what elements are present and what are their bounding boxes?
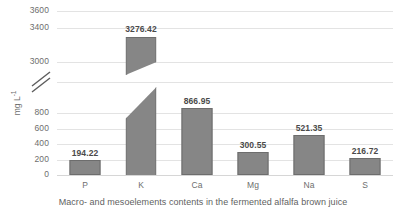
y-axis-tick-3600: 3600 bbox=[30, 6, 49, 15]
bar-slot-P: 194.22 bbox=[57, 11, 113, 175]
bar-K-upper-segment[interactable] bbox=[126, 37, 157, 76]
x-axis-tick-Na: Na bbox=[304, 180, 315, 190]
bar-Ca[interactable] bbox=[182, 108, 213, 175]
bar-value-label-Ca: 866.95 bbox=[184, 96, 211, 106]
x-axis-tick-Ca: Ca bbox=[192, 180, 203, 190]
bar-slot-Mg: 300.55 bbox=[225, 11, 281, 175]
y-axis-title-text: mg L bbox=[12, 96, 22, 115]
y-axis-tick-0: 0 bbox=[44, 170, 49, 179]
bar-value-label-Na: 521.35 bbox=[296, 123, 323, 133]
bar-value-label-S: 216.72 bbox=[352, 146, 379, 156]
x-axis-tick-S: S bbox=[362, 180, 368, 190]
axis-break-icon bbox=[30, 70, 56, 94]
bar-value-label-K: 3276.42 bbox=[125, 24, 156, 34]
bar-value-label-Mg: 300.55 bbox=[240, 140, 267, 150]
y-axis-tick-200: 200 bbox=[35, 155, 49, 164]
bar-slot-Na: 521.35 bbox=[281, 11, 337, 175]
y-axis-title: mg L-1 bbox=[10, 80, 22, 126]
y-axis-tick-labels: 3000340036000200400600800 bbox=[0, 0, 57, 221]
y-axis-tick-400: 400 bbox=[35, 139, 49, 148]
plot-area: 194.223276.42866.95300.55521.35216.72 bbox=[57, 11, 393, 175]
bar-slot-S: 216.72 bbox=[337, 11, 393, 175]
bar-Mg[interactable] bbox=[238, 152, 269, 175]
bar-slot-Ca: 866.95 bbox=[169, 11, 225, 175]
bar-Na[interactable] bbox=[294, 135, 325, 175]
bar-K-lower-segment[interactable] bbox=[126, 87, 157, 175]
x-axis-tick-K: K bbox=[138, 180, 144, 190]
axis-baseline bbox=[57, 175, 393, 176]
x-axis-tick-P: P bbox=[82, 180, 88, 190]
bar-value-label-P: 194.22 bbox=[72, 148, 99, 158]
bar-slot-K: 3276.42 bbox=[113, 11, 169, 175]
x-axis-title: Macro- and mesoelements contents in the … bbox=[0, 197, 406, 207]
bar-S[interactable] bbox=[350, 158, 381, 175]
y-axis-tick-600: 600 bbox=[35, 124, 49, 133]
y-axis-tick-3400: 3400 bbox=[30, 23, 49, 32]
y-axis-title-exponent: -1 bbox=[10, 91, 17, 97]
y-axis-tick-800: 800 bbox=[35, 108, 49, 117]
bar-P[interactable] bbox=[70, 160, 101, 175]
x-axis-tick-Mg: Mg bbox=[247, 180, 259, 190]
y-axis-tick-3000: 3000 bbox=[30, 57, 49, 66]
bar-chart: 3000340036000200400600800 mg L-1 194.223… bbox=[0, 0, 406, 221]
